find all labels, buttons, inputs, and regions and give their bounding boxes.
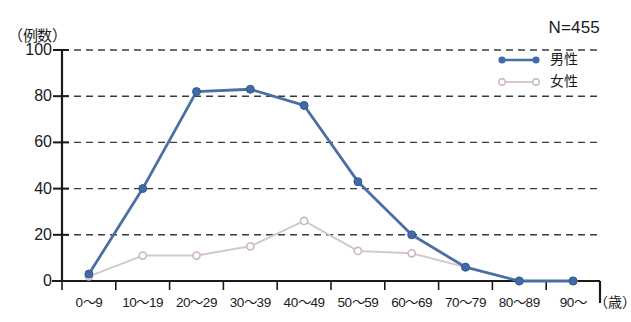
x-tick-label: 0〜9 [62, 295, 116, 310]
y-tick-label: 40 [4, 181, 52, 197]
series-female [85, 217, 576, 284]
y-tick-label: 60 [4, 134, 52, 150]
x-tick-label: 30〜39 [223, 295, 277, 310]
x-tick-label: 80〜89 [492, 295, 546, 310]
x-tick-label: 20〜29 [170, 295, 224, 310]
y-tick-label: 20 [4, 227, 52, 243]
data-point [139, 185, 147, 193]
data-point [569, 277, 577, 285]
y-tick-label: 0 [4, 273, 52, 289]
y-tick-label: 80 [4, 88, 52, 104]
axis-lines [52, 50, 600, 303]
data-point [246, 85, 254, 93]
series-line [89, 221, 573, 281]
x-tick-label: 10〜19 [116, 295, 170, 310]
data-point [462, 263, 470, 271]
data-point [300, 101, 308, 109]
data-point [247, 243, 254, 250]
data-point [408, 250, 415, 257]
y-tick-label: 100 [4, 42, 52, 58]
data-point [408, 231, 416, 239]
data-point [354, 247, 361, 254]
x-tick-label: 40〜49 [277, 295, 331, 310]
data-point [139, 252, 146, 259]
data-point [301, 217, 308, 224]
series-line [89, 89, 573, 281]
data-point [193, 88, 201, 96]
x-tick-label: 60〜69 [385, 295, 439, 310]
data-point [85, 270, 93, 278]
x-axis-unit-label: （歳） [594, 295, 631, 310]
x-tick-label: 70〜79 [439, 295, 493, 310]
x-tick-label: 50〜59 [331, 295, 385, 310]
data-point [515, 277, 523, 285]
data-point [193, 252, 200, 259]
data-point [354, 178, 362, 186]
x-tick-label: 90〜 [546, 295, 600, 310]
